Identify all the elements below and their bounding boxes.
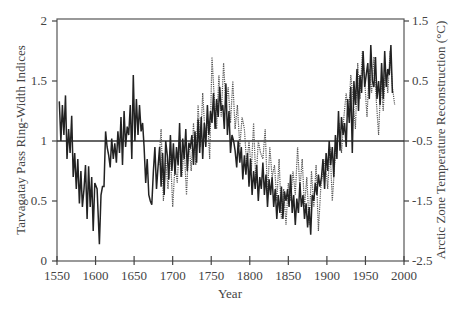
- x-axis-title: Year: [218, 286, 243, 301]
- y-tick-label-right: -2.5: [412, 253, 433, 268]
- x-tick-label: 1750: [198, 268, 224, 283]
- ring-width-series-line: [59, 45, 392, 244]
- y-tick-label-right: 1.5: [412, 13, 428, 28]
- y-axis-title-left: Tarvagatay Pass Ring-Width Indices: [13, 45, 28, 235]
- x-tick-label: 1850: [275, 268, 301, 283]
- x-axis: 1550160016501700175018001850190019502000: [44, 256, 417, 283]
- x-tick-label: 1800: [237, 268, 263, 283]
- y-tick-label-right: -1.5: [412, 193, 433, 208]
- y-tick-label-right: 0.5: [412, 73, 428, 88]
- y-tick-label-left: 0.5: [31, 193, 47, 208]
- y-tick-label-left: 0: [41, 253, 48, 268]
- x-tick-label: 1550: [44, 268, 70, 283]
- y-tick-label-left: 1: [41, 133, 48, 148]
- x-tick-label: 1900: [314, 268, 340, 283]
- x-tick-label: 1950: [352, 268, 378, 283]
- y-tick-label-left: 1.5: [31, 73, 47, 88]
- x-tick-label: 1650: [121, 268, 147, 283]
- y-tick-label-left: 2: [41, 13, 48, 28]
- y-axis-left: 00.511.52: [31, 13, 57, 268]
- x-tick-label: 2000: [391, 268, 417, 283]
- x-tick-label: 1600: [83, 268, 109, 283]
- y-axis-title-right: Arctic Zone Temperature Reconstruction (…: [433, 21, 448, 260]
- y-axis-right: -2.5-1.5-0.50.51.5: [404, 13, 433, 268]
- x-tick-label: 1700: [160, 268, 186, 283]
- y-tick-label-right: -0.5: [412, 133, 433, 148]
- chart: 1550160016501700175018001850190019502000…: [0, 0, 463, 316]
